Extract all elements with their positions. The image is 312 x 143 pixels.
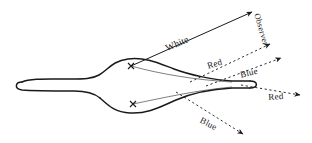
ray-blue-upper — [206, 58, 281, 86]
ray-white — [131, 12, 252, 66]
ray-origin-markers — [128, 63, 136, 107]
ray-red-lower — [241, 85, 300, 95]
figure-canvas: White Observer Red Blue Red Blue — [0, 0, 312, 143]
optics-ray-diagram — [0, 0, 312, 143]
ray-blue-lower — [176, 92, 243, 134]
prism-body-outline — [16, 59, 256, 113]
